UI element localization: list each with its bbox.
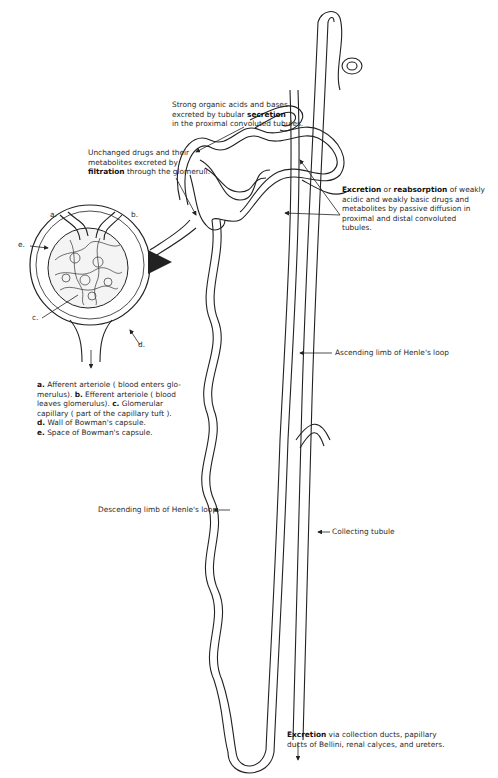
reabsorption-line1-text: of weakly: [447, 185, 485, 194]
reabsorption-line1: Excretion or reabsorption of weakly: [342, 185, 485, 195]
final-excretion-line1: Excretion via collection ducts, papillar…: [287, 730, 444, 740]
label-b: b.: [131, 210, 138, 220]
reabsorption-label: Excretion or reabsorption of weakly acid…: [342, 185, 485, 233]
secretion-line2-text: excreted by tubular: [172, 110, 247, 119]
legend-text-b2: leaves glomerulus).: [37, 399, 112, 408]
legend-text-b: Efferent arteriole ( blood: [83, 390, 176, 399]
final-excretion-line1-text: via collection ducts, papillary: [326, 730, 436, 739]
legend-text-a: Afferent arteriole ( blood enters glo-: [45, 380, 181, 389]
final-excretion-line2: ducts of Bellini, renal calyces, and ure…: [287, 740, 444, 750]
secretion-line3: in the proximal convoluted tubules.: [172, 119, 303, 129]
descending-limb-label: Descending limb of Henle's loop.: [98, 505, 219, 515]
ascending-limb-label: Ascending limb of Henle's loop: [335, 348, 449, 358]
legend-line5: d. Wall of Bowman's capsule.: [37, 418, 181, 428]
legend-text-d: Wall of Bowman's capsule.: [45, 418, 146, 427]
secretion-line1: Strong organic acids and bases: [172, 100, 303, 110]
legend-line1: a. Afferent arteriole ( blood enters glo…: [37, 380, 181, 390]
final-excretion-label: Excretion via collection ducts, papillar…: [287, 730, 444, 749]
legend-key-b: b.: [75, 390, 83, 399]
legend-key-a: a.: [37, 380, 45, 389]
excretion-bold: Excretion: [342, 185, 381, 194]
glomerulus-legend: a. Afferent arteriole ( blood enters glo…: [37, 380, 181, 438]
filtration-line3: filtration through the glomeruli.: [88, 167, 210, 177]
legend-key-e: e.: [37, 428, 45, 437]
reabsorption-line3: metabolites by passive diffusion in: [342, 204, 485, 214]
legend-text-c: Glomerular: [119, 399, 163, 408]
legend-line6: e. Space of Bowman's capsule.: [37, 428, 181, 438]
secretion-line2: excreted by tubular secretion: [172, 110, 303, 120]
glomerulus: [30, 205, 196, 368]
reabsorption-line5: tubules.: [342, 223, 485, 233]
collecting-tubule: [293, 12, 362, 760]
filtration-line2: metabolites excreted by: [88, 158, 210, 168]
reabsorption-line4: proximal and distal convoluted: [342, 214, 485, 224]
collecting-tubule-label: Collecting tubule: [332, 527, 395, 537]
label-e: e.: [18, 240, 25, 250]
filtration-line3-text: through the glomeruli.: [125, 167, 210, 176]
filtration-bold: filtration: [88, 167, 125, 176]
secretion-label: Strong organic acids and bases excreted …: [172, 100, 303, 129]
label-a: a.: [50, 210, 57, 220]
legend-line2: merulus). b. Efferent arteriole ( blood: [37, 390, 181, 400]
reabsorption-line2: acidic and weakly basic drugs and: [342, 195, 485, 205]
legend-text-a2: merulus).: [37, 390, 75, 399]
filtration-label: Unchanged drugs and their metabolites ex…: [88, 148, 210, 177]
legend-line3: leaves glomerulus). c. Glomerular: [37, 399, 181, 409]
ascending-limb: [228, 90, 350, 773]
secretion-bold: secretion: [247, 110, 286, 119]
filtration-line1: Unchanged drugs and their: [88, 148, 210, 158]
label-d: d.: [138, 340, 145, 350]
reabsorption-bold: reabsorption: [394, 185, 448, 194]
label-c: c.: [32, 313, 38, 323]
or-text: or: [381, 185, 393, 194]
legend-key-d: d.: [37, 418, 45, 427]
final-excretion-bold: Excretion: [287, 730, 326, 739]
legend-text-e: Space of Bowman's capsule.: [45, 428, 153, 437]
descending-limb: [202, 220, 236, 752]
legend-line4: capillary ( part of the capillary tuft )…: [37, 409, 181, 419]
